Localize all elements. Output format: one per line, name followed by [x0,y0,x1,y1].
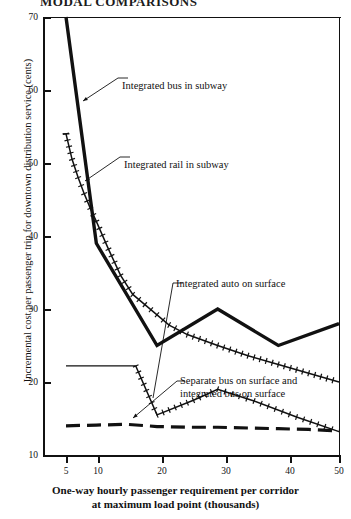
annotation-integrated-auto-on-surface: Integrated auto on surface [176,278,285,291]
x-axis-title-line-1: One-way hourly passenger requirement per… [0,484,351,498]
chart-plot-area [0,0,351,519]
annotation-integrated-bus-in-subway: Integrated bus in subway [122,80,227,93]
annotation-line-2: integrated bus on surface [180,388,285,399]
x-axis-title-line-2: at maximum load point (thousands) [0,498,351,512]
annotation-integrated-rail-in-subway: Integrated rail in subway [124,159,229,172]
series-line-integrated-bus-in-subway [66,17,339,346]
chart-figure: MODAL COMPARISONS Incremental cost per p… [0,0,351,519]
leader-integrated-rail-in-subway [85,157,120,181]
series-line-separate-bus-on-surface [66,424,339,431]
annotation-line-1: Separate bus on surface and [180,375,297,386]
annotation-separate-bus-on-surface: Separate bus on surface and integrated b… [180,375,297,400]
x-axis-title: One-way hourly passenger requirement per… [0,484,351,511]
leader-integrated-bus-in-subway [83,78,118,101]
leader-integrated-bus-in-subway-arrowhead [83,97,88,101]
